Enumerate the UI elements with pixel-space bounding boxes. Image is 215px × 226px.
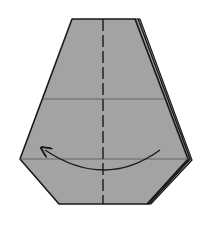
origami-diagram: Folded paper model, turn over / fold lef… (0, 0, 215, 226)
front-paper-face (20, 19, 188, 204)
diagram-canvas (0, 0, 215, 226)
